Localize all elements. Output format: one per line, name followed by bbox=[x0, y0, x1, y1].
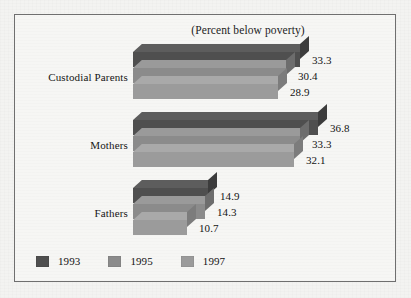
category-label-custodial-parents: Custodial Parents bbox=[10, 71, 128, 83]
value-label-fathers-1997: 10.7 bbox=[199, 222, 219, 234]
bar-custodial-parents-1997 bbox=[133, 84, 278, 99]
legend-item-1993: 1993 bbox=[36, 255, 80, 267]
legend-swatch-1997 bbox=[181, 256, 194, 267]
value-label-custodial-parents-1993: 33.3 bbox=[312, 54, 332, 66]
legend-label-1997: 1997 bbox=[203, 255, 225, 267]
bar-end-cap bbox=[318, 104, 327, 127]
value-label-fathers-1995: 14.3 bbox=[217, 206, 237, 218]
bar-fathers-1997 bbox=[133, 220, 187, 235]
bar-face bbox=[133, 152, 294, 167]
bar-top-face bbox=[133, 76, 287, 84]
value-label-mothers-1995: 33.3 bbox=[312, 138, 332, 150]
bar-top-face bbox=[133, 180, 217, 188]
bar-top-face bbox=[133, 144, 303, 152]
bar-top-face bbox=[133, 128, 309, 136]
legend-swatch-1995 bbox=[108, 256, 121, 267]
bar-mothers-1997 bbox=[133, 152, 294, 167]
chart-legend: 1993 1995 1997 bbox=[36, 255, 253, 267]
legend-swatch-1993 bbox=[36, 256, 49, 267]
bar-top-face bbox=[133, 112, 327, 120]
bar-face bbox=[133, 220, 187, 235]
category-label-fathers: Fathers bbox=[10, 207, 128, 219]
value-label-mothers-1997: 32.1 bbox=[306, 154, 326, 166]
value-label-mothers-1993: 36.8 bbox=[330, 122, 350, 134]
category-label-mothers: Mothers bbox=[10, 139, 128, 151]
bar-end-cap bbox=[300, 36, 309, 59]
legend-item-1995: 1995 bbox=[108, 255, 152, 267]
legend-label-1993: 1993 bbox=[58, 255, 80, 267]
bar-top-face bbox=[133, 196, 214, 204]
value-label-custodial-parents-1997: 28.9 bbox=[290, 86, 310, 98]
chart-page: (Percent below poverty) Custodial Parent… bbox=[0, 0, 411, 298]
bar-top-face bbox=[133, 60, 295, 68]
value-label-custodial-parents-1995: 30.4 bbox=[298, 70, 318, 82]
value-label-fathers-1993: 14.9 bbox=[220, 190, 240, 202]
bar-top-face bbox=[133, 44, 309, 52]
legend-item-1997: 1997 bbox=[181, 255, 225, 267]
plot-area: Custodial Parents 33.3 30.4 28.9 Mothers… bbox=[0, 0, 411, 298]
legend-label-1995: 1995 bbox=[130, 255, 152, 267]
bar-face bbox=[133, 84, 278, 99]
